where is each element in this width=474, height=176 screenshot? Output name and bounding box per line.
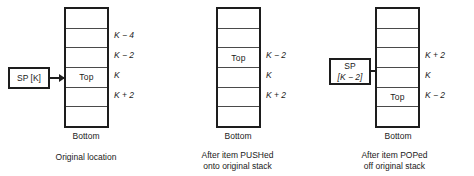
- stack-bottom-label: Bottom: [358, 131, 438, 141]
- sp-box-line: SP [K]: [17, 73, 41, 84]
- stack-cell: [218, 29, 259, 49]
- stack-cell: [377, 9, 418, 29]
- stack-cell: [66, 29, 107, 49]
- panel-caption-original: Original location: [10, 152, 162, 163]
- stack-cell: [377, 107, 418, 126]
- stack-after-push: Top: [216, 7, 261, 128]
- caption-line: After item POPed: [317, 150, 472, 161]
- stack-panel-after-push: SP [K − 2] Top K − 2 K K + 2 Bottom Afte…: [160, 0, 315, 176]
- stack-cell: [377, 29, 418, 49]
- stack-cell: [66, 88, 107, 108]
- stack-cell-top: Top: [377, 88, 418, 108]
- stack-cell: [218, 9, 259, 29]
- stack-cell-top: Top: [66, 68, 107, 88]
- panel-caption-after-push: After item PUSHed onto original stack: [160, 150, 315, 173]
- stack-address-label: K − 2: [425, 91, 445, 100]
- stack-cell: [66, 107, 107, 126]
- stack-address-label: K + 2: [266, 91, 286, 100]
- stack-after-pop: Top: [375, 7, 420, 128]
- stack-original: Top: [64, 7, 109, 128]
- stack-address-label: K − 2: [114, 51, 134, 60]
- stack-bottom-label: Bottom: [198, 131, 278, 141]
- stack-address-label: K − 4: [114, 31, 134, 40]
- stack-cell: [66, 48, 107, 68]
- caption-line: Original location: [10, 152, 162, 163]
- stack-address-label: K − 2: [266, 51, 286, 60]
- stack-panel-after-pop: SP [K + 2] Top K + 2 K K − 2 Bottom Afte…: [315, 0, 474, 176]
- stack-address-label: K: [266, 71, 272, 80]
- stack-address-label: K + 2: [425, 51, 445, 60]
- stack-cell: [377, 68, 418, 88]
- panel-caption-after-pop: After item POPed off original stack: [317, 150, 472, 173]
- caption-line: onto original stack: [160, 161, 315, 172]
- stack-panel-original: SP [K] Top K − 4 K − 2 K K + 2 Bottom Or…: [0, 0, 160, 176]
- stack-cell: [218, 68, 259, 88]
- stack-cell-top: Top: [218, 48, 259, 68]
- stack-cell: [377, 48, 418, 68]
- stack-cell: [218, 88, 259, 108]
- sp-pointer-arrow-original: [50, 77, 64, 79]
- stack-address-label: K + 2: [114, 91, 134, 100]
- stack-bottom-label: Bottom: [46, 131, 126, 141]
- stack-cell: [66, 9, 107, 29]
- caption-line: off original stack: [317, 161, 472, 172]
- stack-address-label: K: [425, 71, 431, 80]
- sp-box-original: SP [K]: [8, 67, 50, 89]
- stack-address-label: K: [114, 71, 120, 80]
- stack-cell: [218, 107, 259, 126]
- caption-line: After item PUSHed: [160, 150, 315, 161]
